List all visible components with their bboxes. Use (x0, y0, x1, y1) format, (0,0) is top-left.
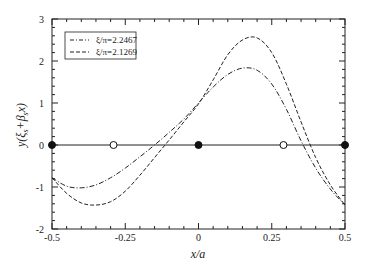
filled-circle-marker (195, 142, 202, 149)
x-tick-label: 0.25 (263, 232, 281, 243)
series-line-2 (52, 37, 345, 205)
y-axis-title: y(ξs+βsx) (14, 103, 30, 148)
y-tick-label: 3 (39, 14, 44, 25)
y-tick-label: -1 (36, 182, 44, 193)
legend-label-series-1: ξ/π=2.2467 (96, 35, 137, 45)
legend-label-series-2: ξ/π=2.1269 (96, 47, 137, 57)
x-axis-title: x/a (190, 247, 206, 261)
filled-circle-marker (49, 142, 56, 149)
x-tick-label: -0.25 (115, 232, 136, 243)
chart-plot: -0.5-0.2500.250.5-2-10123 x/a y(ξs+βsx) … (0, 0, 365, 267)
y-tick-label: 0 (39, 140, 44, 151)
y-tick-label: -2 (36, 224, 44, 235)
x-tick-label: 0 (196, 232, 201, 243)
x-tick-label: -0.5 (44, 232, 60, 243)
filled-circle-marker (342, 142, 349, 149)
open-circle-marker (280, 142, 287, 149)
open-circle-marker (110, 142, 117, 149)
series-line-1 (52, 68, 345, 205)
y-tick-label: 1 (39, 98, 44, 109)
x-tick-label: 0.5 (339, 232, 352, 243)
legend: ξ/π=2.2467 ξ/π=2.1269 (65, 32, 137, 59)
y-tick-label: 2 (39, 56, 44, 67)
series-layer (52, 37, 345, 205)
